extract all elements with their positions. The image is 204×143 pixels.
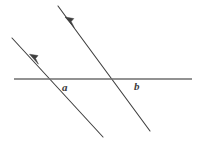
- angle-label-b: b: [134, 81, 140, 92]
- diagram-canvas: [0, 0, 204, 143]
- parallel-line-left: [12, 38, 103, 137]
- geometry-diagram: a b: [0, 0, 204, 143]
- angle-label-a: a: [62, 82, 68, 93]
- arrowhead-right-icon: [65, 17, 74, 27]
